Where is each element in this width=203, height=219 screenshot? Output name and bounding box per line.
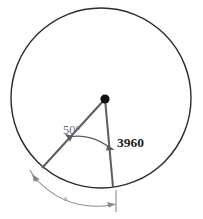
arc-dimension-arrowhead-left — [32, 174, 40, 181]
radius-label: 3960 — [117, 136, 144, 150]
angle-arc — [69, 136, 111, 148]
center-dot — [100, 94, 109, 103]
geometry-figure: 50° 3960 s — [0, 0, 203, 219]
arc-dimension-arrowhead-right — [107, 202, 116, 208]
radius-right — [105, 99, 113, 187]
diagram-canvas — [0, 0, 203, 219]
angle-label: 50° — [63, 124, 81, 137]
arc-length-dimension-line — [35, 178, 112, 206]
arc-length-label: s — [64, 194, 68, 203]
